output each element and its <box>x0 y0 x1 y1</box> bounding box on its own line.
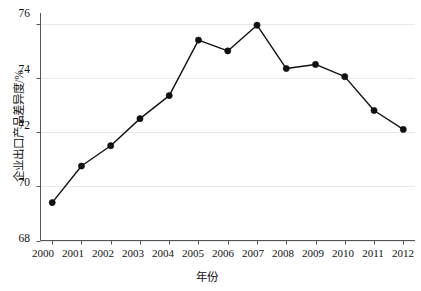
tick-marks <box>37 25 404 245</box>
data-point-2001 <box>78 163 84 169</box>
axis-frame <box>41 13 416 241</box>
data-point-2008 <box>283 65 289 71</box>
data-point-2000 <box>49 199 55 205</box>
data-point-2007 <box>254 22 260 28</box>
chart-container: 企业出口产品差异度/% 年份 76 74 72 70 68 2000 2001 … <box>0 0 421 291</box>
plot-area <box>0 0 421 291</box>
data-point-2006 <box>225 48 231 54</box>
series-markers <box>49 22 406 206</box>
data-point-2003 <box>137 116 143 122</box>
data-point-2009 <box>312 61 318 67</box>
data-point-2004 <box>166 93 172 99</box>
gridlines <box>41 25 416 242</box>
data-point-2012 <box>400 126 406 132</box>
data-point-2011 <box>371 107 377 113</box>
data-point-2010 <box>342 74 348 80</box>
data-point-2005 <box>195 37 201 43</box>
data-point-2002 <box>108 143 114 149</box>
